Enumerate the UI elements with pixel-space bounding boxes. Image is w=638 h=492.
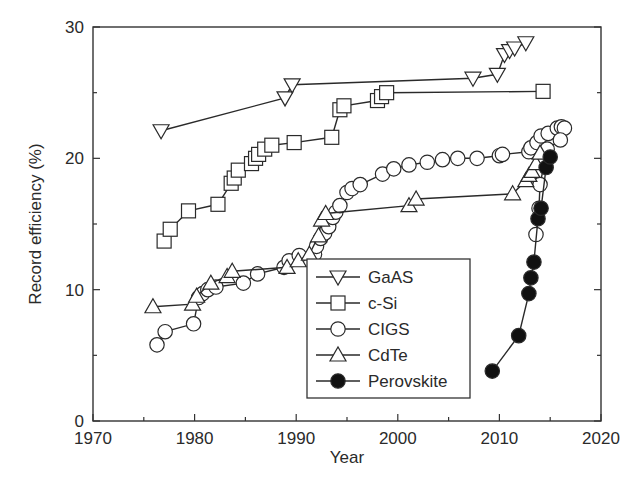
data-point xyxy=(522,286,536,300)
data-point xyxy=(353,177,367,191)
data-point xyxy=(495,147,509,161)
data-point xyxy=(470,151,484,165)
legend-marker-icon xyxy=(331,374,345,388)
data-point xyxy=(402,158,416,172)
y-tick-label: 0 xyxy=(75,412,84,431)
x-tick-label: 1980 xyxy=(176,429,214,448)
data-point xyxy=(543,150,557,164)
legend-label: CdTe xyxy=(368,346,408,365)
data-point xyxy=(451,151,465,165)
x-tick-label: 1990 xyxy=(277,429,315,448)
data-point xyxy=(186,317,200,331)
data-point xyxy=(211,197,225,211)
y-tick-label: 30 xyxy=(65,18,84,37)
data-point xyxy=(325,130,339,144)
legend: GaASc-SiCIGSCdTePerovskite xyxy=(307,259,470,398)
data-point xyxy=(534,201,548,215)
x-tick-label: 1970 xyxy=(74,429,112,448)
data-point xyxy=(236,276,250,290)
data-point xyxy=(536,84,550,98)
data-point xyxy=(158,324,172,338)
legend-label: CIGS xyxy=(368,320,410,339)
data-point xyxy=(337,99,351,113)
x-tick-label: 2020 xyxy=(582,429,620,448)
data-point xyxy=(524,271,538,285)
y-axis-title: Record efficiency (%) xyxy=(26,143,45,304)
data-point xyxy=(265,138,279,152)
data-point xyxy=(435,152,449,166)
y-tick-label: 20 xyxy=(65,149,84,168)
data-point xyxy=(182,204,196,218)
data-point xyxy=(420,155,434,169)
data-point xyxy=(231,163,245,177)
data-point xyxy=(553,133,567,147)
legend-marker-icon xyxy=(331,322,345,336)
data-point xyxy=(287,136,301,150)
efficiency-chart: 1970198019902000201020200102030 Year Rec… xyxy=(0,0,638,492)
data-point xyxy=(150,338,164,352)
y-tick-label: 10 xyxy=(65,281,84,300)
x-tick-label: 2010 xyxy=(480,429,518,448)
legend-label: c-Si xyxy=(368,294,397,313)
legend-label: GaAS xyxy=(368,268,413,287)
data-point xyxy=(380,86,394,100)
legend-label: Perovskite xyxy=(368,372,447,391)
data-point xyxy=(485,364,499,378)
x-tick-label: 2000 xyxy=(379,429,417,448)
data-point xyxy=(333,198,347,212)
legend-marker-icon xyxy=(331,296,345,310)
legend-item-perovskite: Perovskite xyxy=(316,372,447,391)
data-point xyxy=(387,162,401,176)
data-point xyxy=(163,222,177,236)
data-point xyxy=(527,255,541,269)
data-point xyxy=(512,328,526,342)
x-axis-title: Year xyxy=(330,448,365,467)
